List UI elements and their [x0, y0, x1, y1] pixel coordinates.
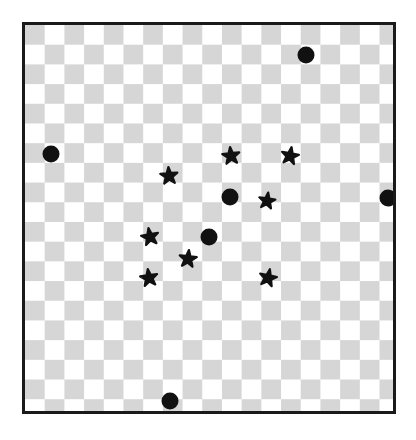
circle-marker: [298, 47, 315, 64]
circle-marker: [162, 393, 179, 410]
circle-marker: [222, 189, 239, 206]
checkerboard-surface: [25, 25, 393, 411]
circle-marker: [43, 146, 60, 163]
checkerboard-panel: [22, 22, 396, 414]
checker-pattern: [25, 25, 393, 411]
shape-scene: [0, 0, 416, 440]
circle-marker: [201, 229, 218, 246]
